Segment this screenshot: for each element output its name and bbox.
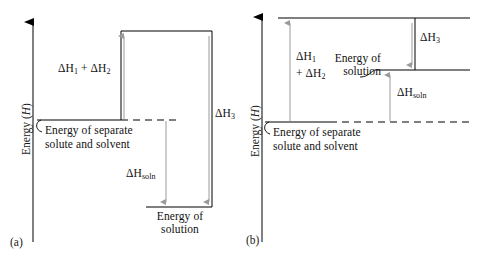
panel-b: Energy (H) ΔH1 + ΔH2 Energy of solution …	[238, 0, 477, 264]
solution-level-label-a: Energy of solution	[143, 210, 217, 236]
delta-h1-h2-label-a: ΔH1 + ΔH2	[58, 62, 111, 78]
energy-axis-label-a: Energy (H)	[20, 103, 32, 155]
panel-a: Energy (H) ΔH1 + ΔH2 ΔH3 ΔHsoln Energy o…	[0, 0, 238, 264]
separated-level-leader-b	[265, 122, 270, 134]
delta-h3-label-a: ΔH3	[215, 107, 235, 123]
separated-level-leader-a	[37, 120, 42, 132]
delta-hsoln-label-b: ΔHsoln	[397, 86, 427, 102]
delta-hsoln-label-a: ΔHsoln	[126, 167, 156, 183]
panel-tag-a: (a)	[10, 236, 23, 248]
solution-level-label-b: Energy of solution	[321, 52, 381, 78]
panel-tag-b: (b)	[246, 234, 259, 246]
separated-level-label-a: Energy of separate solute and solvent	[45, 124, 175, 151]
delta-h3-label-b: ΔH3	[420, 31, 440, 47]
energy-axis-label-b: Energy (H)	[249, 105, 261, 157]
separated-level-label-b: Energy of separate solute and solvent	[273, 126, 403, 153]
energy-diagram-figure: Energy (H) ΔH1 + ΔH2 ΔH3 ΔHsoln Energy o…	[0, 0, 477, 264]
